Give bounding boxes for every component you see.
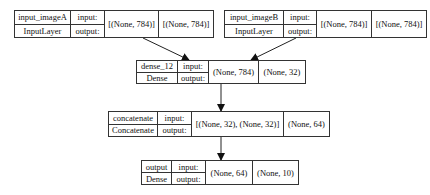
output-label: output: <box>158 124 191 137</box>
layer-type: InputLayer <box>15 24 70 38</box>
input-shape: [(None, 784)] <box>105 11 159 37</box>
layer-name: input_imageB <box>225 11 283 24</box>
edge-input-imageA-to-dense-12 <box>143 38 189 60</box>
layer-type: InputLayer <box>225 24 283 38</box>
layer-name: concatenate <box>109 112 157 124</box>
node-dense-12: dense_12 Dense input: output: (None, 784… <box>136 60 306 84</box>
input-shape: [(None, 784)] <box>317 11 372 37</box>
output-label: output: <box>178 72 208 84</box>
output-label: output: <box>284 24 316 38</box>
output-label: output: <box>172 172 205 184</box>
node-concatenate: concatenate Concatenate input: output: [… <box>108 111 330 137</box>
layer-type: Dense <box>142 172 171 184</box>
output-shape: (None, 32) <box>259 61 305 83</box>
layer-name: dense_12 <box>137 61 177 72</box>
input-shape: (None, 784) <box>209 61 259 83</box>
input-shape: (None, 64) <box>206 161 253 184</box>
input-label: input: <box>284 11 316 24</box>
node-input-imageA: input_imageA InputLayer input: output: [… <box>14 10 214 38</box>
edge-input-imageB-to-dense-12 <box>251 38 296 60</box>
layer-name: output <box>142 161 171 172</box>
layer-type: Concatenate <box>109 124 157 137</box>
layer-type: Dense <box>137 72 177 84</box>
input-label: input: <box>178 61 208 72</box>
layer-name: input_imageA <box>15 11 70 24</box>
node-output: output Dense input: output: (None, 64) (… <box>141 160 299 185</box>
output-shape: (None, 10) <box>253 161 298 184</box>
input-label: input: <box>172 161 205 172</box>
output-shape: [(None, 784)] <box>372 11 426 37</box>
input-label: input: <box>158 112 191 124</box>
output-shape: [(None, 784)] <box>159 11 213 37</box>
output-shape: (None, 64) <box>284 112 329 136</box>
output-label: output: <box>71 24 104 38</box>
node-input-imageB: input_imageB InputLayer input: output: [… <box>224 10 427 38</box>
input-label: input: <box>71 11 104 24</box>
input-shape: [(None, 32), (None, 32)] <box>192 112 284 136</box>
